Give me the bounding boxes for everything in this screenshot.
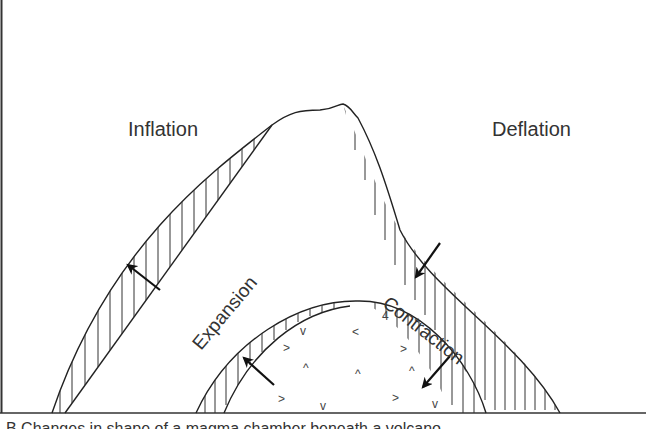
expansion-arrow <box>244 358 274 385</box>
svg-text:>: > <box>278 392 285 406</box>
inflation-hatching <box>60 132 254 413</box>
svg-text:<: < <box>352 325 359 339</box>
svg-text:>: > <box>392 391 399 405</box>
svg-text:v: v <box>320 399 326 413</box>
inflation-inner-line <box>65 125 272 413</box>
svg-text:v: v <box>300 324 306 338</box>
svg-text:>: > <box>283 341 290 355</box>
diagram-svg: v > < 4 > ^ ^ > v > v ^ <box>0 0 646 429</box>
volcano-deformation-diagram: v > < 4 > ^ ^ > v > v ^ Inflation Deflat… <box>0 0 646 429</box>
svg-text:^: ^ <box>355 367 361 381</box>
svg-text:v: v <box>432 397 438 411</box>
label-deflation: Deflation <box>492 118 571 141</box>
svg-text:^: ^ <box>409 364 415 378</box>
svg-text:^: ^ <box>303 361 309 375</box>
figure-caption: B Changes in shape of a magma chamber be… <box>6 418 441 429</box>
label-inflation: Inflation <box>128 118 198 141</box>
inflation-arrow <box>128 265 160 290</box>
svg-text:>: > <box>400 342 407 356</box>
chamber-inner-left <box>224 306 350 413</box>
